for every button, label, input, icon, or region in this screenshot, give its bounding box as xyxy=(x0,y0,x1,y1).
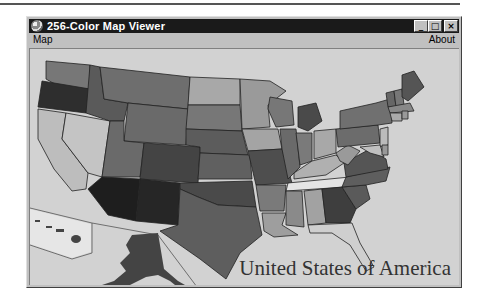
state-colorado[interactable] xyxy=(140,143,200,183)
state-ohio[interactable] xyxy=(314,129,336,159)
state-new-jersey[interactable] xyxy=(380,127,388,147)
state-iowa[interactable] xyxy=(242,129,282,151)
state-arkansas[interactable] xyxy=(256,185,286,211)
state-connecticut[interactable] xyxy=(390,113,402,121)
window-controls: _ □ × xyxy=(414,20,458,32)
state-arizona[interactable] xyxy=(88,177,140,221)
state-michigan[interactable] xyxy=(298,103,322,131)
menu-map[interactable]: Map xyxy=(33,34,52,45)
title-bar[interactable]: 256-Color Map Viewer _ □ × xyxy=(29,19,459,33)
state-maine[interactable] xyxy=(402,71,424,101)
globe-icon[interactable] xyxy=(31,20,43,32)
top-divider xyxy=(0,3,460,5)
app-window: 256-Color Map Viewer _ □ × Map About xyxy=(26,16,462,288)
state-south-dakota[interactable] xyxy=(186,105,242,131)
window-title: 256-Color Map Viewer xyxy=(47,20,165,32)
map-canvas[interactable]: United States of America xyxy=(29,48,459,285)
inset-hawaii-bg xyxy=(30,209,91,258)
state-wyoming[interactable] xyxy=(124,103,188,145)
state-new-mexico[interactable] xyxy=(136,179,180,225)
state-rhode-island[interactable] xyxy=(402,111,408,119)
maximize-button[interactable]: □ xyxy=(428,20,442,32)
state-kansas[interactable] xyxy=(198,153,252,179)
state-new-york[interactable] xyxy=(340,99,392,129)
state-mississippi[interactable] xyxy=(286,191,304,227)
menu-about[interactable]: About xyxy=(429,34,455,45)
menu-bar: Map About xyxy=(29,34,459,47)
state-wisconsin[interactable] xyxy=(268,97,294,127)
map-caption: United States of America xyxy=(239,256,451,281)
state-north-dakota[interactable] xyxy=(188,77,240,105)
minimize-button[interactable]: _ xyxy=(414,20,428,32)
close-button[interactable]: × xyxy=(444,20,458,32)
state-delaware[interactable] xyxy=(382,145,388,155)
us-map[interactable] xyxy=(30,49,459,285)
